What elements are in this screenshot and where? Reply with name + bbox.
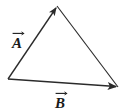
vector-label-a-text: A (12, 36, 22, 51)
closing-side-line (57, 6, 118, 87)
vector-label-b: B (55, 96, 65, 111)
vector-label-a: A (12, 36, 22, 51)
over-arrow-icon-a (12, 30, 25, 36)
vector-diagram-figure: A B (0, 0, 124, 111)
vector-b-arrow (8, 79, 116, 87)
vector-label-b-text: B (55, 96, 65, 111)
over-arrow-icon-b (55, 90, 68, 96)
